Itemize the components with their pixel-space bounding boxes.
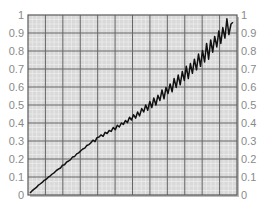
y-tick-label-right: 0.3 <box>241 135 256 147</box>
y-tick-label-right: 0.8 <box>241 45 256 57</box>
line-chart: 00.10.20.30.40.50.60.70.80.91 00.10.20.3… <box>0 0 261 212</box>
y-tick-label-left: 0.3 <box>9 135 24 147</box>
y-tick-label-right: 0.2 <box>241 153 256 165</box>
y-tick-label-right: 0.7 <box>241 63 256 75</box>
y-tick-label-left: 0.2 <box>9 153 24 165</box>
y-tick-label-right: 0.9 <box>241 27 256 39</box>
y-tick-label-left: 0.5 <box>9 99 24 111</box>
y-tick-label-right: 0 <box>241 189 247 201</box>
y-tick-label-left: 0.4 <box>9 117 24 129</box>
y-tick-label-left: 0.6 <box>9 81 24 93</box>
y-tick-label-right: 0.6 <box>241 81 256 93</box>
left-y-axis-labels: 00.10.20.30.40.50.60.70.80.91 <box>9 9 24 201</box>
y-tick-label-left: 0.8 <box>9 45 24 57</box>
y-tick-label-left: 0 <box>18 189 24 201</box>
y-tick-label-right: 0.4 <box>241 117 256 129</box>
y-tick-label-left: 0.1 <box>9 171 24 183</box>
y-tick-label-right: 1 <box>241 9 247 21</box>
y-tick-label-right: 0.1 <box>241 171 256 183</box>
y-tick-label-left: 0.9 <box>9 27 24 39</box>
y-tick-label-right: 0.5 <box>241 99 256 111</box>
right-y-axis-labels: 00.10.20.30.40.50.60.70.80.91 <box>241 9 256 201</box>
y-tick-label-left: 0.7 <box>9 63 24 75</box>
y-tick-label-left: 1 <box>18 9 24 21</box>
